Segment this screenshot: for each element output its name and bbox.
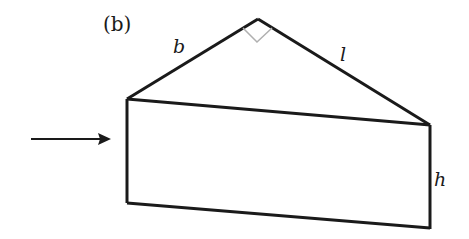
edge-l <box>258 19 430 125</box>
label-l: l <box>340 45 346 64</box>
triangular-prism-diagram <box>0 0 469 239</box>
edge-b <box>127 19 258 99</box>
label-h: h <box>434 170 446 189</box>
right-angle-mark <box>243 28 272 42</box>
edge-bottom <box>127 203 430 228</box>
edge-hypotenuse <box>127 99 430 125</box>
label-b: b <box>173 37 185 56</box>
front-face <box>127 99 430 229</box>
arrow-icon <box>31 133 111 145</box>
panel-label: (b) <box>103 14 131 34</box>
